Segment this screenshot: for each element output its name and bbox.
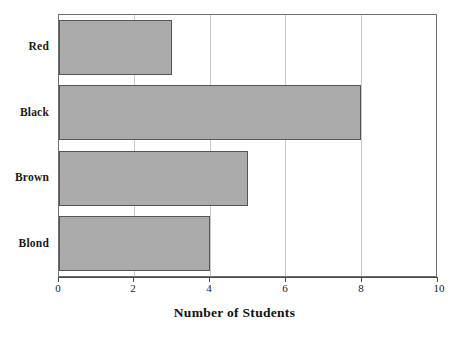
category-axis-labels: Red Black Brown Blond — [0, 14, 55, 277]
plot-area — [58, 14, 437, 277]
x-tick-label-4: 4 — [206, 283, 212, 294]
bar-red — [59, 20, 172, 75]
category-label-brown: Brown — [15, 173, 49, 185]
category-label-blond: Blond — [19, 238, 49, 250]
x-axis-title: Number of Students — [0, 305, 469, 321]
bar-blond — [59, 216, 210, 271]
bar-chart: Red Black Brown Blond 0 2 4 6 8 10 Numbe… — [0, 0, 469, 337]
gridline-4 — [210, 15, 211, 276]
category-label-red: Red — [29, 41, 49, 53]
x-tick-label-0: 0 — [55, 283, 61, 294]
gridline-6 — [285, 15, 286, 276]
x-tick-label-8: 8 — [358, 283, 364, 294]
x-tick-label-10: 10 — [434, 283, 445, 294]
x-tick-label-6: 6 — [282, 283, 288, 294]
x-axis-line — [58, 277, 437, 278]
bar-black — [59, 85, 361, 140]
category-label-black: Black — [20, 107, 49, 119]
bar-brown — [59, 151, 248, 206]
gridline-8 — [361, 15, 362, 276]
x-tick-label-2: 2 — [130, 283, 136, 294]
